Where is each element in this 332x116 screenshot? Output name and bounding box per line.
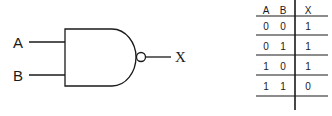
cell: 1	[302, 42, 314, 52]
input-a-label: A	[13, 35, 23, 50]
cell: 0	[277, 62, 289, 72]
cell: 1	[277, 42, 289, 52]
header-b: B	[277, 6, 289, 16]
input-b-label: B	[13, 68, 23, 83]
nand-gate-body	[65, 29, 136, 86]
output-x-label: X	[175, 50, 186, 65]
header-x: X	[302, 6, 314, 16]
cell: 1	[302, 62, 314, 72]
nand-gate-diagram	[0, 0, 332, 116]
truth-table-lines	[256, 0, 328, 110]
cell: 1	[277, 82, 289, 92]
cell: 0	[260, 22, 272, 32]
header-a: A	[260, 6, 272, 16]
cell: 1	[302, 22, 314, 32]
cell: 0	[260, 42, 272, 52]
cell: 0	[302, 82, 314, 92]
cell: 0	[277, 22, 289, 32]
cell: 1	[260, 82, 272, 92]
inversion-bubble	[137, 53, 146, 62]
cell: 1	[260, 62, 272, 72]
